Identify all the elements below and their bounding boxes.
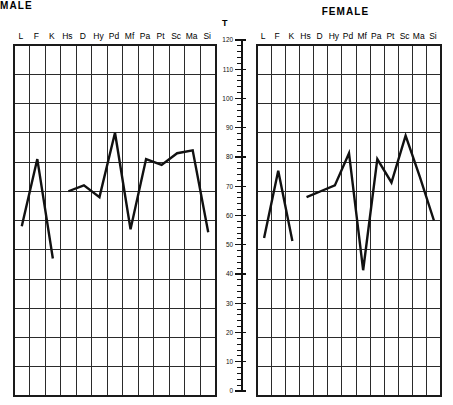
scale-label-hy: Hy [93, 31, 103, 41]
scale-label-mf: Mf [125, 31, 134, 41]
t-axis-tick-90: 90 [226, 124, 234, 131]
scale-label-f: F [34, 31, 39, 41]
scale-label-pa: Pa [140, 31, 150, 41]
profile-line-validity [264, 171, 292, 241]
t-axis-tick-80: 80 [226, 153, 234, 160]
scale-label-f: F [275, 31, 280, 41]
scale-label-ma: Ma [413, 31, 425, 41]
t-axis-tick-110: 110 [223, 66, 234, 73]
male-panel-title: MALE [0, 0, 33, 11]
scale-label-hs: Hs [300, 31, 310, 41]
female-profile-chart [256, 44, 442, 397]
scale-label-ma: Ma [186, 31, 198, 41]
t-axis-tick-100: 100 [222, 95, 233, 102]
scale-label-k: K [289, 31, 295, 41]
scale-label-l: L [18, 31, 23, 41]
scale-label-hs: Hs [62, 31, 72, 41]
scale-label-d: D [317, 31, 323, 41]
scale-label-pd: Pd [109, 31, 119, 41]
male-scale-labels: LFKHsDHyPdMfPaPtScMaSi [13, 31, 215, 45]
scale-label-sc: Sc [400, 31, 410, 41]
female-panel-title: FEMALE [238, 6, 453, 17]
scale-label-pt: Pt [386, 31, 394, 41]
female-scale-labels: LFKHsDHyPdMfPaPtScMaSi [256, 31, 440, 45]
scale-label-k: K [49, 31, 55, 41]
t-axis-tick-30: 30 [226, 300, 234, 307]
scale-label-l: L [261, 31, 266, 41]
t-axis-tick-0: 0 [229, 387, 233, 394]
scale-label-si: Si [429, 31, 437, 41]
t-axis-tick-10: 10 [226, 358, 234, 365]
scale-label-pt: Pt [157, 31, 165, 41]
t-axis-tick-40: 40 [226, 270, 234, 277]
t-axis-tick-50: 50 [226, 241, 234, 248]
t-axis-tick-70: 70 [226, 183, 234, 190]
profile-line-validity [22, 159, 53, 258]
scale-label-si: Si [203, 31, 211, 41]
t-score-axis-title: T [222, 18, 228, 28]
scale-label-hy: Hy [329, 31, 339, 41]
scale-label-sc: Sc [171, 31, 181, 41]
scale-label-pa: Pa [371, 31, 381, 41]
t-axis-tick-120: 120 [222, 36, 233, 43]
scale-label-mf: Mf [357, 31, 366, 41]
t-axis-tick-60: 60 [226, 212, 234, 219]
scale-label-pd: Pd [343, 31, 353, 41]
male-profile-chart [13, 44, 217, 397]
t-axis-tick-20: 20 [226, 329, 234, 336]
scale-label-d: D [80, 31, 86, 41]
